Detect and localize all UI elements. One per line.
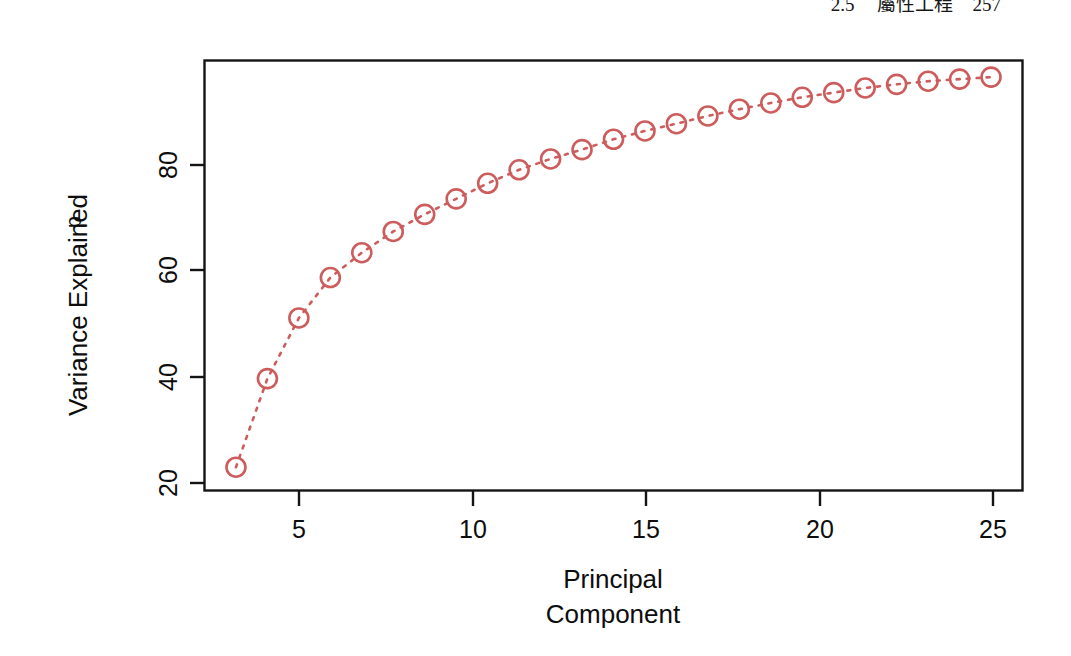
data-point-marker bbox=[541, 149, 560, 168]
data-series bbox=[226, 68, 1000, 477]
series-markers bbox=[226, 68, 1000, 477]
data-point-marker bbox=[667, 114, 686, 133]
x-tick-label-15: 15 bbox=[632, 515, 660, 543]
y-tick-label-20: 20 bbox=[154, 469, 182, 497]
data-point-marker bbox=[415, 205, 434, 224]
x-axis-tick-labels: 5 10 15 20 25 bbox=[292, 515, 1007, 543]
data-point-marker bbox=[698, 106, 717, 125]
y-axis-title-superscript: p bbox=[61, 216, 86, 228]
x-axis-title-line-2: Component bbox=[546, 599, 681, 629]
series-line bbox=[236, 77, 991, 467]
x-axis-title: Principal Component bbox=[546, 564, 681, 629]
x-tick-label-20: 20 bbox=[806, 515, 834, 543]
x-axis-title-line-1: Principal bbox=[563, 564, 663, 594]
y-tick-label-80: 80 bbox=[154, 151, 182, 179]
x-tick-label-10: 10 bbox=[459, 515, 487, 543]
y-axis-tick-labels: 80 60 40 20 bbox=[154, 151, 182, 497]
plot-canvas: 80 60 40 20 Variance Explained p 5 10 15… bbox=[0, 0, 1071, 656]
x-tick-label-5: 5 bbox=[292, 515, 306, 543]
x-tick-label-25: 25 bbox=[979, 515, 1007, 543]
data-point-marker bbox=[982, 68, 1001, 87]
data-point-marker bbox=[478, 174, 497, 193]
x-axis-ticks bbox=[299, 491, 993, 507]
plot-frame bbox=[205, 61, 1023, 491]
variance-explained-figure: 80 60 40 20 Variance Explained p 5 10 15… bbox=[0, 0, 1071, 656]
y-tick-label-40: 40 bbox=[154, 363, 182, 391]
data-point-marker bbox=[573, 140, 592, 159]
y-tick-label-60: 60 bbox=[154, 256, 182, 284]
y-axis-ticks bbox=[190, 165, 205, 483]
